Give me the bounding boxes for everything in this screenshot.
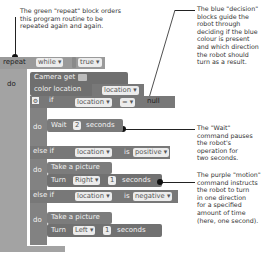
camera-get-label: Camera get xyxy=(34,73,75,81)
gear-icon[interactable]: ⚙ xyxy=(32,97,39,104)
annotation-line: amount of time xyxy=(197,209,265,217)
condition-socket xyxy=(72,57,76,68)
turn-left-seconds-input[interactable]: 1 xyxy=(103,226,111,235)
annotation-line: two seconds. xyxy=(197,154,265,162)
elseif-positive-keyword: else if xyxy=(33,147,54,155)
wait-label: Wait xyxy=(51,121,66,129)
color-location-label: color location xyxy=(34,85,81,93)
annotation-line: in one direction xyxy=(197,194,265,202)
wait-unit-label: seconds xyxy=(86,121,115,129)
elseif-negative-location-dropdown[interactable]: location ▾ xyxy=(75,192,112,201)
if-location-dropdown[interactable]: location ▾ xyxy=(75,98,112,107)
turn-direction-right-dropdown[interactable]: Right ▾ xyxy=(73,176,100,185)
repeat-mode-dropdown[interactable]: while ▾ xyxy=(36,58,63,67)
leader-line-wait xyxy=(123,129,195,130)
repeat-block-spine xyxy=(0,69,27,249)
elseif-negative-do-label: do xyxy=(33,216,42,224)
turn-right-unit: seconds xyxy=(122,176,151,184)
annotation-motion: The purple "motion" command instructs th… xyxy=(197,171,265,224)
annotation-line: command instructs xyxy=(197,179,265,187)
elseif-negative-keyword: else if xyxy=(33,191,54,199)
annotation-line: for a specified xyxy=(197,201,265,209)
elseif-positive-is: is xyxy=(124,148,130,156)
if-operator-dropdown[interactable]: = ▾ xyxy=(120,98,135,107)
if-keyword: if xyxy=(49,96,53,104)
take-picture-label-2: Take a picture xyxy=(51,213,100,221)
turn-left-label: Turn xyxy=(51,226,66,234)
repeat-keyword: repeat xyxy=(3,58,26,66)
annotation-wait: The "Wait" command pauses the robot's op… xyxy=(197,124,265,162)
leader-line-motion xyxy=(162,182,195,183)
elseif-positive-do-label: do xyxy=(33,166,42,174)
turn-left-unit: seconds xyxy=(117,226,146,234)
if-do-label: do xyxy=(33,123,42,131)
if-null-value: null xyxy=(147,97,160,105)
annotation-line: The "Wait" xyxy=(197,124,265,132)
repeat-condition-dropdown[interactable]: true ▾ xyxy=(78,58,102,67)
elseif-positive-value-dropdown[interactable]: positive ▾ xyxy=(133,148,169,157)
annotation-line: command pauses xyxy=(197,132,265,140)
annotation-line: the robot to turn xyxy=(197,186,265,194)
repeat-do-label: do xyxy=(7,80,16,88)
annotation-line: the robot's xyxy=(197,139,265,147)
turn-right-label: Turn xyxy=(51,176,66,184)
annotation-line: The purple "motion" xyxy=(197,171,265,179)
elseif-negative-value-dropdown[interactable]: negative ▾ xyxy=(133,192,172,201)
leader-dot-motion xyxy=(157,179,163,185)
turn-direction-left-dropdown[interactable]: Left ▾ xyxy=(73,226,95,235)
elseif-positive-location-dropdown[interactable]: location ▾ xyxy=(75,148,112,157)
repeat-block-foot xyxy=(0,246,65,252)
turn-right-seconds-input[interactable]: 1 xyxy=(108,176,116,185)
camera-slot xyxy=(78,74,87,81)
elseif-negative-is: is xyxy=(124,192,130,200)
annotation-line: (here, one second). xyxy=(197,217,265,225)
wait-seconds-input[interactable]: 2 xyxy=(73,121,81,130)
take-picture-label: Take a picture xyxy=(51,163,100,171)
annotation-line: operation for xyxy=(197,147,265,155)
camera-location-dropdown[interactable]: location ▾ xyxy=(102,86,139,95)
